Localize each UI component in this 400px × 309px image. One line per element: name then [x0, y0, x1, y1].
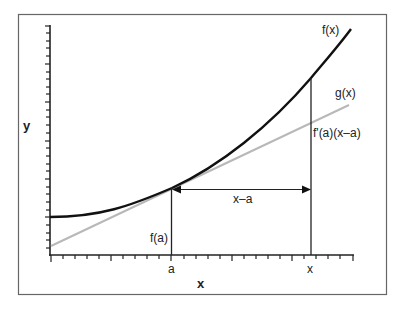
x-axis-ticks	[51, 255, 353, 262]
curve-g-label: g(x)	[335, 87, 356, 99]
tangent-line-diagram	[0, 0, 400, 309]
tick-label-a: a	[168, 263, 175, 275]
increment-label: x–a	[233, 193, 252, 205]
fa-label: f(a)	[150, 232, 168, 244]
frame	[19, 15, 387, 295]
tick-label-x: x	[307, 263, 313, 275]
tangent-line-g	[51, 105, 349, 246]
x-axis-title: x	[197, 277, 204, 290]
y-axis-title: y	[23, 119, 30, 132]
rise-label: f'(a)(x–a)	[313, 127, 361, 139]
curve-f-label: f(x)	[322, 24, 339, 36]
arrowhead-right-icon	[302, 186, 311, 194]
